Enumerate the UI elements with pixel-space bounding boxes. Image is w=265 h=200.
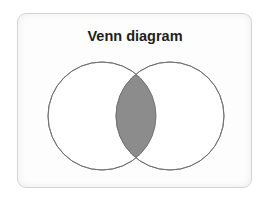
venn-diagram [0,0,265,200]
